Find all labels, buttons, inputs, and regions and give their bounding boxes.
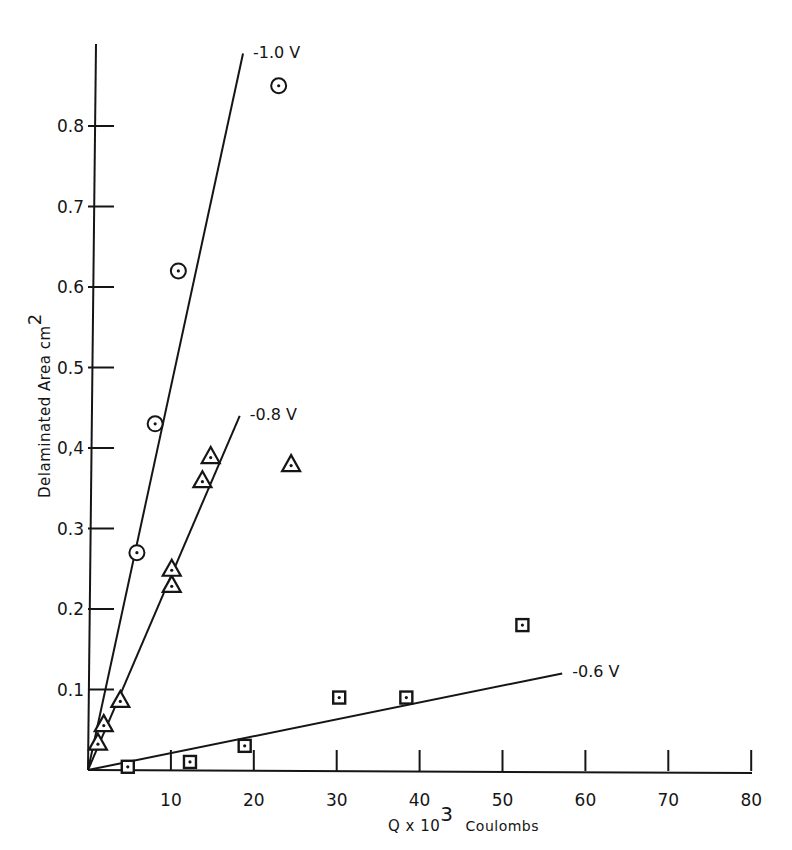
marker-center-dot	[188, 760, 191, 763]
marker-center-dot	[102, 724, 105, 727]
triangle-marker-icon	[89, 734, 107, 750]
triangle-marker-icon	[193, 471, 211, 487]
data-point	[122, 761, 134, 773]
series-label: -1.0 V	[253, 43, 300, 62]
y-tick-label: 0.8	[57, 116, 84, 136]
marker-center-dot	[135, 551, 138, 554]
chart-figure: 10203040506070800.10.20.30,40.50.60.70.8…	[0, 0, 792, 850]
triangle-marker-icon	[111, 691, 129, 707]
series-label: -0.6 V	[572, 662, 619, 681]
data-point	[271, 78, 286, 93]
y-axis-title: Delaminated Area cm2	[24, 313, 54, 498]
y-axis-line	[88, 44, 96, 770]
data-point	[184, 756, 196, 768]
marker-center-dot	[170, 585, 173, 588]
data-point	[202, 447, 220, 463]
fit-line	[88, 54, 243, 770]
marker-center-dot	[521, 624, 524, 627]
data-point	[400, 692, 412, 704]
marker-center-dot	[290, 464, 293, 467]
data-point	[89, 734, 107, 750]
marker-center-dot	[119, 700, 122, 703]
data-point	[193, 471, 211, 487]
marker-center-dot	[126, 765, 129, 768]
marker-center-dot	[170, 569, 173, 572]
data-point	[163, 576, 181, 592]
marker-center-dot	[405, 696, 408, 699]
triangle-marker-icon	[282, 455, 300, 471]
series-label: -0.8 V	[250, 405, 297, 424]
y-tick-label: 0.1	[57, 680, 84, 700]
x-tick-label: 40	[409, 790, 431, 810]
marker-center-dot	[96, 743, 99, 746]
x-tick-label: 50	[492, 790, 514, 810]
marker-center-dot	[154, 422, 157, 425]
x-tick-label: 80	[740, 790, 762, 810]
data-point	[129, 545, 144, 560]
fit-lines	[88, 54, 562, 770]
series-labels: -1.0 V-0.8 V-0.6 V	[250, 43, 620, 682]
marker-center-dot	[338, 696, 341, 699]
data-point	[171, 263, 186, 278]
y-tick-label: 0.7	[57, 197, 84, 217]
data-point	[111, 691, 129, 707]
y-tick-label: 0.6	[57, 277, 84, 297]
marker-center-dot	[243, 744, 246, 747]
triangle-marker-icon	[163, 576, 181, 592]
marker-center-dot	[177, 269, 180, 272]
fit-line	[88, 673, 562, 770]
data-point	[516, 619, 528, 631]
marker-center-dot	[277, 84, 280, 87]
x-tick-label: 70	[657, 790, 679, 810]
data-point	[239, 740, 251, 752]
x-tick-label: 60	[575, 790, 597, 810]
x-tick-label: 10	[160, 790, 182, 810]
x-tick-label: 30	[326, 790, 348, 810]
data-point	[282, 455, 300, 471]
marker-center-dot	[209, 456, 212, 459]
y-tick-label: 0.5	[57, 358, 84, 378]
triangle-marker-icon	[202, 447, 220, 463]
marker-center-dot	[201, 480, 204, 483]
y-tick-label: 0.3	[57, 519, 84, 539]
axes: 10203040506070800.10.20.30,40.50.60.70.8…	[24, 44, 762, 835]
data-point	[333, 692, 345, 704]
x-tick-label: 20	[243, 790, 265, 810]
data-point	[148, 416, 163, 431]
data-points	[89, 78, 528, 773]
y-tick-label: 0.2	[57, 599, 84, 619]
y-tick-label: 0,4	[57, 438, 84, 458]
